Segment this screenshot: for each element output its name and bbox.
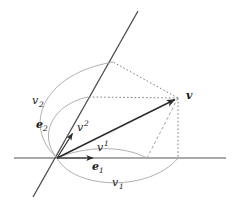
label-v-contravariant-1-base: v [97,141,104,154]
label-v-contravariant-2-sup: 2 [83,119,89,128]
label-v-covariant-2-base: v [32,94,39,107]
label-basis-e1-sub: 1 [99,166,104,175]
label-v-covariant-1-base: v [112,176,119,189]
label-v-contravariant-2: v 2 [77,119,89,134]
label-vector-v: v [186,89,193,102]
label-basis-e2-sub: 2 [42,124,48,133]
label-v-covariant-2: v 2 [32,94,44,109]
e2-axis-line [33,11,138,197]
diagram-canvas: v v 2 v 1 v 2 v 1 e 2 e 1 [0,0,233,204]
label-basis-e2-base: e [36,118,43,131]
label-basis-e1-base: e [92,160,99,173]
label-v-covariant-1-sub: 1 [119,182,124,191]
label-v-covariant-2-sub: 2 [38,100,44,109]
vector-components-diagram: v v 2 v 1 v 2 v 1 e 2 e 1 [0,0,233,204]
label-v-contravariant-1-sup: 1 [104,139,109,148]
label-basis-e2: e 2 [36,118,48,133]
label-basis-e1: e 1 [92,160,104,175]
covariant-v2-upper-dotted-guide [113,62,178,98]
covariant-v2-dotted-guide [88,97,178,98]
label-v-contravariant-2-base: v [77,121,84,134]
contravariant-v1-dashed-guide [147,98,178,158]
label-v-covariant-1: v 1 [112,176,124,191]
label-v-contravariant-1: v 1 [97,139,109,154]
